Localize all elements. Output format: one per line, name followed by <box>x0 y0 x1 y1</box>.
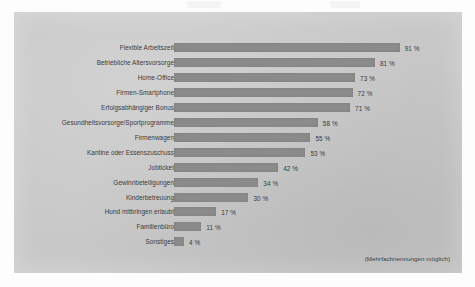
bar-track: 4 % <box>174 237 422 246</box>
bar-row: Familienbüro11 % <box>14 220 462 233</box>
bar-track: 34 % <box>174 178 422 187</box>
scan-artifact <box>330 1 360 8</box>
bar-category-label: Familienbüro <box>0 222 174 231</box>
bar-track: 42 % <box>174 163 422 172</box>
bar-row: Sonstiges4 % <box>14 235 462 248</box>
bar <box>174 237 184 246</box>
bar-category-label: Gesundheitsvorsorge/Sportprogramme <box>0 118 174 127</box>
bar-category-label: Flexible Arbeitszeit <box>0 43 174 52</box>
bar-row: Betriebliche Altersvorsorge81 % <box>14 56 462 69</box>
bar <box>174 148 305 157</box>
bar <box>174 207 216 216</box>
bar-row: Jobticket42 % <box>14 161 462 174</box>
bar-track: 58 % <box>174 118 422 127</box>
bar <box>174 73 355 82</box>
bar <box>174 163 278 172</box>
chart-footnote: (Mehrfachnennungen möglich) <box>365 255 450 262</box>
bar-track: 91 % <box>174 43 422 52</box>
bar-category-label: Erfolgsabhängiger Bonus <box>0 103 174 112</box>
bar <box>174 178 258 187</box>
bar-track: 17 % <box>174 207 422 216</box>
figure: Flexible Arbeitszeit91 %Betriebliche Alt… <box>0 0 475 287</box>
bar-row: Erfolgsabhängiger Bonus71 % <box>14 101 462 114</box>
bar-value-label: 58 % <box>323 119 338 128</box>
bar-row: Home-Office73 % <box>14 71 462 84</box>
bar-row: Flexible Arbeitszeit91 % <box>14 41 462 54</box>
bar-value-label: 53 % <box>310 149 325 158</box>
bar-track: 11 % <box>174 222 422 231</box>
bar-category-label: Firmenwagen <box>0 133 174 142</box>
bar-category-label: Kantine oder Essenszuschuss <box>0 148 174 157</box>
bar <box>174 133 310 142</box>
bar-category-label: Firmen-Smartphone <box>0 88 174 97</box>
bar-chart-plot: Flexible Arbeitszeit91 %Betriebliche Alt… <box>14 12 462 273</box>
bar-category-label: Betriebliche Altersvorsorge <box>0 58 174 67</box>
bar-category-label: Sonstiges <box>0 237 174 246</box>
bar-category-label: Jobticket <box>0 163 174 172</box>
bar-row: Kinderbetreuung30 % <box>14 191 462 204</box>
bar-value-label: 17 % <box>221 208 236 217</box>
bar-track: 72 % <box>174 88 422 97</box>
bar-category-label: Kinderbetreuung <box>0 193 174 202</box>
chart-panel: Flexible Arbeitszeit91 %Betriebliche Alt… <box>14 12 462 273</box>
bar-value-label: 72 % <box>358 89 373 98</box>
bar-value-label: 91 % <box>405 44 420 53</box>
bar-value-label: 81 % <box>380 59 395 68</box>
bar <box>174 43 400 52</box>
bar-track: 81 % <box>174 58 422 67</box>
bar-value-label: 11 % <box>206 223 221 232</box>
bar <box>174 88 353 97</box>
bar-value-label: 55 % <box>315 134 330 143</box>
bar <box>174 222 201 231</box>
bar-row: Gesundheitsvorsorge/Sportprogramme58 % <box>14 116 462 129</box>
bar-track: 71 % <box>174 103 422 112</box>
bar-value-label: 30 % <box>253 194 268 203</box>
bar-row: Hund mitbringen erlaubt17 % <box>14 205 462 218</box>
bar-track: 55 % <box>174 133 422 142</box>
bar-row: Gewinnbeteiligungen34 % <box>14 176 462 189</box>
bar-category-label: Home-Office <box>0 73 174 82</box>
bar-track: 73 % <box>174 73 422 82</box>
bar-value-label: 4 % <box>189 238 200 247</box>
bar-row: Firmenwagen55 % <box>14 131 462 144</box>
bar <box>174 193 248 202</box>
bar-track: 53 % <box>174 148 422 157</box>
bar <box>174 103 350 112</box>
bar-category-label: Hund mitbringen erlaubt <box>0 207 174 216</box>
scan-artifact <box>187 1 221 8</box>
bar-value-label: 71 % <box>355 104 370 113</box>
bar-row: Firmen-Smartphone72 % <box>14 86 462 99</box>
bar-value-label: 34 % <box>263 179 278 188</box>
bar-track: 30 % <box>174 193 422 202</box>
bar-category-label: Gewinnbeteiligungen <box>0 178 174 187</box>
bar-value-label: 73 % <box>360 74 375 83</box>
bar-value-label: 42 % <box>283 164 298 173</box>
bar <box>174 118 318 127</box>
bar-row: Kantine oder Essenszuschuss53 % <box>14 146 462 159</box>
bar <box>174 58 375 67</box>
